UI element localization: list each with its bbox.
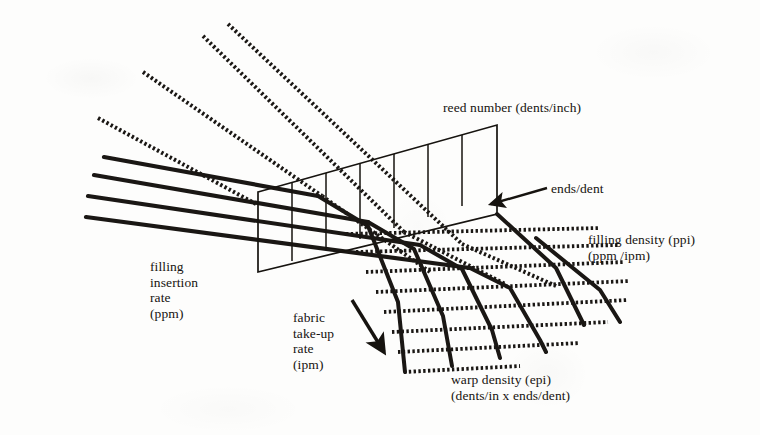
filling-yarn-group (98, 24, 462, 244)
fabric-filling-6 (398, 343, 580, 352)
loom-diagram (0, 0, 760, 435)
label-warp-density: warp density (epi) (dents/in x ends/dent… (451, 372, 570, 403)
label-filling-insertion-rate: filling insertion rate (ppm) (150, 259, 198, 321)
fabric-take-up-arrow (352, 300, 384, 352)
warp-yarn-1 (104, 157, 318, 196)
filling-yarn-continuation-group (322, 196, 556, 286)
ends-per-dent-arrow (491, 188, 547, 204)
label-reed-number: reed number (dents/inch) (443, 100, 581, 116)
fabric-filling-2 (366, 262, 624, 272)
filling-yarn-1 (143, 72, 322, 196)
warp-yarn-group (86, 157, 470, 268)
filling-yarn-2 (203, 36, 404, 232)
label-ends-per-dent: ends/dent (551, 181, 604, 197)
figure-canvas: reed number (dents/inch) ends/dent filli… (0, 0, 760, 435)
label-fabric-take-up-rate: fabric take-up rate (ipm) (293, 310, 334, 372)
fabric-filling-5 (392, 322, 608, 332)
label-filling-density: filling density (ppi) (ppm /ipm) (588, 232, 695, 263)
fabric-filling-4 (384, 300, 628, 312)
